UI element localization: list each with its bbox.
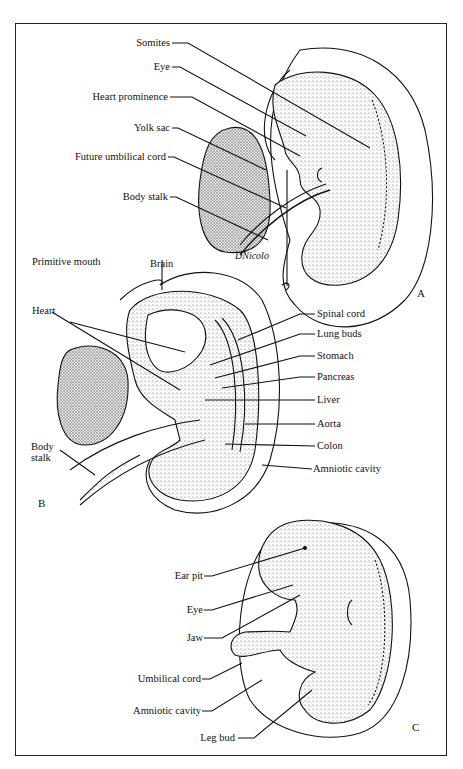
label-yolk-sac: Yolk sac: [134, 122, 170, 134]
label-spinal-cord: Spinal cord: [317, 308, 365, 320]
label-ear-pit: Ear pit: [175, 570, 203, 582]
label-future-umbilical-cord: Future umbilical cord: [75, 151, 166, 163]
label-jaw: Jaw: [187, 632, 203, 644]
label-body-stalk-b-2: stalk: [31, 452, 51, 464]
embryo-illustration: [0, 0, 463, 769]
label-heart: Heart: [32, 305, 55, 317]
label-amniotic-cavity-c: Amniotic cavity: [133, 705, 201, 717]
artist-signature: DNicolo: [235, 250, 269, 262]
label-somites: Somites: [136, 37, 170, 49]
panel-label-b: B: [38, 497, 45, 509]
label-amniotic-cavity-b: Amniotic cavity: [313, 463, 381, 475]
label-eye-c: Eye: [187, 604, 203, 616]
panel-a-drawing: [168, 43, 432, 327]
panel-b-drawing: [52, 260, 315, 513]
label-pancreas: Pancreas: [317, 371, 354, 383]
label-umbilical-cord: Umbilical cord: [138, 673, 201, 685]
label-leg-bud: Leg bud: [200, 732, 235, 744]
label-lung-buds: Lung buds: [317, 328, 362, 340]
label-aorta: Aorta: [317, 418, 341, 430]
label-brain: Brain: [150, 258, 173, 270]
label-colon: Colon: [317, 440, 343, 452]
label-primitive-mouth: Primitive mouth: [32, 256, 101, 268]
label-eye-a: Eye: [154, 61, 170, 73]
label-body-stalk-a: Body stalk: [123, 191, 168, 203]
panel-label-c: C: [412, 721, 419, 733]
label-stomach: Stomach: [317, 350, 354, 362]
label-heart-prominence: Heart prominence: [92, 91, 168, 103]
panel-label-a: A: [417, 287, 425, 299]
label-liver: Liver: [317, 394, 340, 406]
panel-c-drawing: [202, 520, 411, 738]
